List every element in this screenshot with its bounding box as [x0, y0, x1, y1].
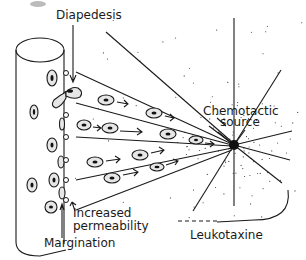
label-leukotaxine: Leukotaxine [190, 228, 263, 242]
cell-with-arrow [146, 108, 174, 121]
margination-arrow [60, 204, 64, 238]
source-dot [229, 140, 239, 150]
cell-with-arrow [87, 156, 120, 167]
cell-with-arrow [132, 147, 164, 160]
migration-lines [76, 32, 232, 210]
label-permeability: permeability [73, 219, 149, 233]
cell-with-arrow [98, 95, 128, 107]
intravascular-leukocytes [27, 70, 65, 213]
label-source: source [220, 115, 260, 129]
cell-with-arrow [77, 120, 101, 131]
cell-with-arrow [189, 136, 214, 147]
label-increased: Increased [73, 206, 131, 220]
leukotaxine-bracket [178, 190, 288, 222]
scan-artifact [30, 1, 46, 7]
label-diapedesis: Diapedesis [56, 8, 122, 22]
leukocyte-chemotaxis-diagram: Diapedesis Chemotactic source Increased … [0, 0, 306, 260]
cell-with-arrow [150, 159, 178, 171]
diapedesis-arrow [70, 25, 76, 82]
label-margination: Margination [44, 236, 115, 250]
stipple-field [75, 20, 302, 218]
blood-vessel [16, 38, 66, 256]
diapedesis-cell [52, 88, 81, 109]
cell-with-arrow [160, 129, 176, 139]
cell-with-arrow [102, 123, 142, 135]
